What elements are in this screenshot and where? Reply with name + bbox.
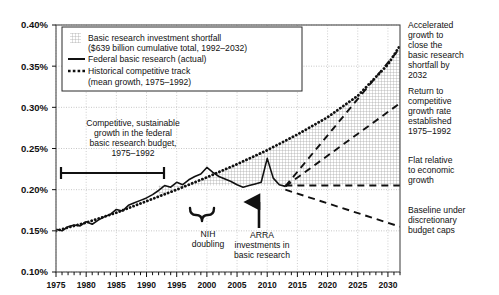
r4l1: Baseline under	[408, 205, 465, 215]
r1l4: basic research	[408, 50, 464, 60]
left-anno-line-3: basic research budget,	[90, 138, 177, 148]
x-tick-label: 2015	[288, 280, 307, 290]
y-tick-label: 0.15%	[21, 225, 48, 236]
arra-anno-line-3: basic research	[234, 250, 290, 260]
r1l6: 2032	[408, 70, 427, 80]
x-tick-label: 1995	[167, 280, 186, 290]
r3l3: growth	[408, 175, 434, 185]
y-tick-label: 0.35%	[21, 61, 48, 72]
legend-label-actual: Federal basic research (actual)	[88, 54, 207, 64]
annotation-return-to-competitive: Return to competitive growth rate establ…	[408, 86, 452, 136]
y-tick-label: 0.40%	[21, 19, 48, 30]
x-tick-label: 2005	[228, 280, 247, 290]
nih-anno-line-1: NIH	[201, 229, 216, 239]
x-tick-label: 2020	[318, 280, 337, 290]
r4l3: budget caps	[408, 225, 455, 235]
r3l2: to economic	[408, 165, 455, 175]
competitive-period-bar	[61, 167, 164, 179]
y-tick-label: 0.20%	[21, 184, 48, 195]
left-anno-line-1: Competitive, sustainable	[86, 118, 180, 128]
y-tick-label: 0.25%	[21, 143, 48, 154]
x-tick-label: 2030	[378, 280, 397, 290]
arra-anno-line-1: ARRA	[250, 230, 274, 240]
r1l2: growth to	[408, 30, 444, 40]
x-tick-label: 2010	[258, 280, 277, 290]
chart-legend: Basic research investment shortfall ($63…	[62, 27, 302, 91]
annotation-baseline-caps: Baseline under discretionary budget caps	[408, 205, 465, 235]
nih-anno-line-2: doubling	[192, 239, 225, 249]
left-anno-line-2: growth in the federal	[94, 128, 172, 138]
x-tick-label: 1975	[47, 280, 66, 290]
x-tick-label: 1985	[107, 280, 126, 290]
x-tick-label: 2025	[348, 280, 367, 290]
annotation-flat-relative: Flat relative to economic growth	[408, 155, 455, 185]
r4l2: discretionary	[408, 215, 457, 225]
r2l2: competitive	[408, 96, 452, 106]
chart-figure: 0.10%0.15%0.20%0.25%0.30%0.35%0.40% 1975…	[0, 0, 499, 295]
legend-label-shortfall-line2: ($639 billion cumulative total, 1992–203…	[88, 43, 247, 53]
annotation-accelerated-growth: Accelerated growth to close the basic re…	[408, 20, 464, 80]
r2l1: Return to	[408, 86, 444, 96]
y-tick-label: 0.10%	[21, 266, 48, 277]
x-tick-label: 2000	[197, 280, 216, 290]
r1l1: Accelerated	[408, 20, 454, 30]
series-5	[285, 190, 400, 227]
r2l4: established	[408, 116, 452, 126]
legend-label-track-line1: Historical competitive track	[88, 66, 191, 76]
basic-research-investment-chart: 0.10%0.15%0.20%0.25%0.30%0.35%0.40% 1975…	[0, 0, 499, 295]
y-tick-label: 0.30%	[21, 102, 48, 113]
r3l1: Flat relative	[408, 155, 453, 165]
x-tick-label: 1990	[137, 280, 156, 290]
legend-label-track-line2: (mean growth, 1975–1992)	[88, 77, 191, 87]
brace-icon	[190, 208, 214, 221]
legend-label-shortfall-line1: Basic research investment shortfall	[88, 33, 221, 43]
x-tick-label: 1980	[77, 280, 96, 290]
annotation-nih-doubling: NIH doubling	[190, 208, 224, 249]
left-anno-line-4: 1975–1992	[111, 148, 154, 158]
r1l3: close the	[408, 40, 443, 50]
r2l3: growth rate	[408, 106, 451, 116]
x-axis-labels: 1975198019851990199520002005201020152020…	[47, 280, 398, 290]
legend-hatch-swatch	[70, 33, 81, 43]
arra-anno-line-2: investments in	[235, 240, 290, 250]
r2l5: 1975–1992	[408, 126, 451, 136]
r1l5: shortfall by	[408, 60, 450, 70]
y-axis-labels: 0.10%0.15%0.20%0.25%0.30%0.35%0.40%	[21, 19, 48, 277]
